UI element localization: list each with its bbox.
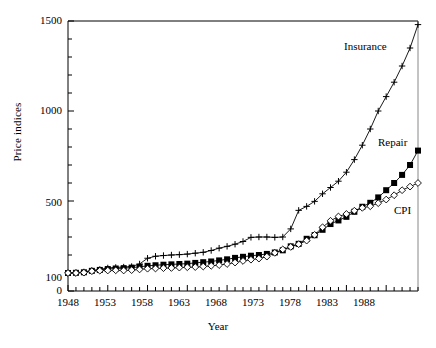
x-tick-label-1978: 1978 [270, 296, 310, 308]
marker-insurance [224, 243, 230, 249]
marker-cpi [415, 180, 422, 187]
x-tick-label-1958: 1958 [122, 296, 162, 308]
marker-insurance [152, 253, 158, 259]
marker-insurance [383, 93, 389, 99]
marker-insurance [415, 21, 421, 27]
marker-insurance [184, 251, 190, 257]
marker-insurance [208, 247, 214, 253]
x-tick-label-1953: 1953 [85, 296, 125, 308]
x-tick-label-1983: 1983 [307, 296, 347, 308]
marker-repair [399, 172, 405, 178]
marker-insurance [256, 234, 262, 240]
marker-insurance [359, 142, 365, 148]
marker-insurance [399, 63, 405, 69]
marker-repair [415, 148, 421, 154]
marker-cpi [391, 192, 398, 199]
series-label-repair: Repair [378, 136, 407, 148]
marker-insurance [160, 252, 166, 258]
marker-insurance [272, 234, 278, 240]
y-tick-label-100: 100 [22, 271, 62, 283]
marker-insurance [391, 79, 397, 85]
marker-insurance [216, 245, 222, 251]
marker-insurance [168, 252, 174, 258]
series-label-insurance: Insurance [344, 40, 387, 52]
marker-insurance [240, 238, 246, 244]
chart-figure: Price indices Year 1500 1000 500 100 0 1… [0, 0, 436, 348]
y-tick-label-500: 500 [22, 196, 62, 208]
x-tick-label-1968: 1968 [196, 296, 236, 308]
y-tick-label-1500: 1500 [22, 14, 62, 26]
marker-insurance [375, 108, 381, 114]
marker-insurance [367, 126, 373, 132]
marker-insurance [264, 234, 270, 240]
marker-insurance [295, 207, 301, 213]
marker-cpi [399, 187, 406, 194]
marker-insurance [176, 251, 182, 257]
x-tick-label-1948: 1948 [48, 296, 88, 308]
x-axis-label: Year [0, 320, 436, 332]
marker-insurance [144, 255, 150, 261]
marker-insurance [351, 156, 357, 162]
marker-insurance [407, 45, 413, 51]
marker-repair [407, 162, 413, 168]
x-tick-label-1973: 1973 [233, 296, 273, 308]
series-line-insurance [68, 25, 418, 273]
marker-insurance [192, 250, 198, 256]
marker-insurance [232, 241, 238, 247]
y-tick-label-1000: 1000 [22, 104, 62, 116]
y-tick-label-0: 0 [22, 284, 62, 296]
marker-insurance [200, 249, 206, 255]
marker-cpi [383, 196, 390, 203]
marker-cpi [375, 200, 382, 207]
marker-insurance [248, 234, 254, 240]
x-tick-label-1988: 1988 [344, 296, 384, 308]
marker-cpi [407, 183, 414, 190]
y-axis-label: Price indices [11, 87, 23, 177]
marker-repair [383, 187, 389, 193]
x-tick-label-1963: 1963 [159, 296, 199, 308]
marker-insurance [303, 203, 309, 209]
marker-repair [391, 180, 397, 186]
series-label-cpi: CPI [394, 204, 411, 216]
